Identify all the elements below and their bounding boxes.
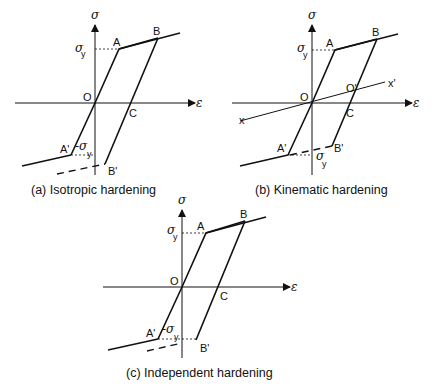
caption-c: (c) Independent hardening — [126, 366, 273, 380]
sigma-y-sub: y — [303, 50, 308, 60]
point-o: O — [83, 91, 92, 103]
point-a: A — [113, 36, 121, 48]
sigma-y-sub: y — [81, 49, 86, 59]
epsilon-label: ε — [291, 280, 297, 294]
caption-a: (a) Isotropic hardening — [31, 183, 156, 197]
point-o: O — [300, 91, 309, 103]
point-b: B — [153, 25, 160, 37]
sigma-label: σ — [308, 8, 317, 22]
neg-sigma-y-sub: y — [174, 332, 179, 342]
point-a-prime: A' — [60, 143, 69, 155]
point-a-prime: A' — [146, 327, 155, 339]
sigma-label: σ — [91, 8, 100, 22]
point-c: C — [220, 290, 228, 302]
point-b: B — [372, 26, 379, 38]
point-a-prime: A' — [277, 142, 286, 154]
epsilon-label: ε — [413, 96, 419, 110]
panel-isotropic — [15, 25, 195, 175]
caption-b: (b) Kinematic hardening — [255, 183, 388, 197]
point-b-prime: B' — [334, 142, 343, 154]
point-a: A — [326, 37, 334, 49]
sigma-y-sub: y — [173, 232, 178, 242]
dashed-extension — [290, 146, 332, 155]
sigma-label: σ — [178, 193, 187, 207]
neg-sigma-y-sub: y — [322, 159, 327, 169]
x-prime-label: x' — [388, 77, 396, 89]
x-label: x — [239, 114, 245, 126]
point-o: O — [170, 275, 179, 287]
point-b: B — [240, 208, 247, 220]
point-b-prime: B' — [108, 165, 117, 177]
dashed-extension — [147, 343, 182, 351]
point-c: C — [129, 107, 137, 119]
panel-independent — [103, 210, 290, 358]
point-b-prime: B' — [200, 342, 209, 354]
point-a: A — [197, 220, 205, 232]
point-o-prime: O' — [346, 82, 357, 94]
neg-sigma-y-sub: y — [87, 149, 92, 159]
epsilon-label: ε — [196, 96, 202, 110]
hardening-diagrams: σ ε σ y A B O C A' B' -σ y (a) Isotropic… — [0, 0, 437, 391]
dashed-extension — [57, 164, 105, 174]
point-c: C — [346, 107, 354, 119]
